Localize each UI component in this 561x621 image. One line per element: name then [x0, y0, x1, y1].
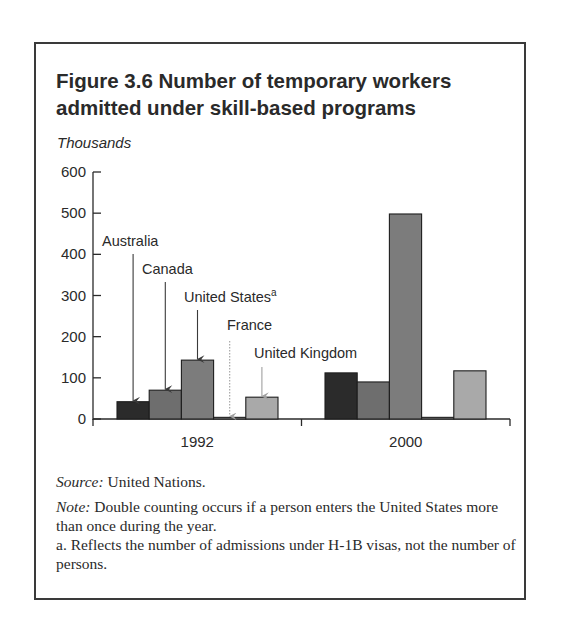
source-label: Source: — [56, 473, 104, 490]
bars — [117, 214, 486, 419]
bar-united-states-2000 — [389, 214, 421, 419]
y-tick-label: 500 — [61, 204, 86, 221]
y-tick-label: 100 — [61, 369, 86, 386]
bar-france-2000 — [422, 417, 454, 419]
footnote-a: a. Reflects the number of admissions und… — [56, 535, 516, 573]
y-tick-label: 600 — [61, 163, 86, 180]
y-tick-label: 300 — [61, 287, 86, 304]
y-tick-label: 200 — [61, 328, 86, 345]
figure-notes: Source: United Nations. Note: Double cou… — [56, 472, 516, 573]
series-label-united-kingdom: United Kingdom — [254, 345, 357, 361]
note: Note: Double counting occurs if a person… — [56, 497, 516, 535]
y-tick-label: 400 — [61, 245, 86, 262]
y-tick-label: 0 — [78, 410, 86, 427]
note-text: Double counting occurs if a person enter… — [56, 498, 498, 534]
bar-united-kingdom-1992 — [246, 397, 278, 419]
bar-australia-1992 — [117, 402, 149, 419]
note-label: Note: — [56, 498, 90, 515]
series-label-australia: Australia — [102, 233, 159, 249]
bar-canada-1992 — [149, 390, 181, 419]
series-label-canada: Canada — [142, 261, 194, 277]
series-labels: AustraliaCanadaUnited StatesaFranceUnite… — [102, 233, 357, 416]
series-label-france: France — [227, 317, 272, 333]
x-category-label: 2000 — [389, 433, 422, 450]
bar-canada-2000 — [357, 382, 389, 419]
bar-france-1992 — [214, 417, 246, 419]
series-label-united-states: United Statesa — [184, 287, 277, 305]
source-note: Source: United Nations. — [56, 472, 516, 491]
source-text: United Nations. — [104, 473, 206, 490]
bar-united-kingdom-2000 — [454, 371, 486, 419]
bar-united-states-1992 — [181, 360, 213, 419]
x-category-label: 1992 — [181, 433, 214, 450]
bar-australia-2000 — [325, 373, 357, 419]
